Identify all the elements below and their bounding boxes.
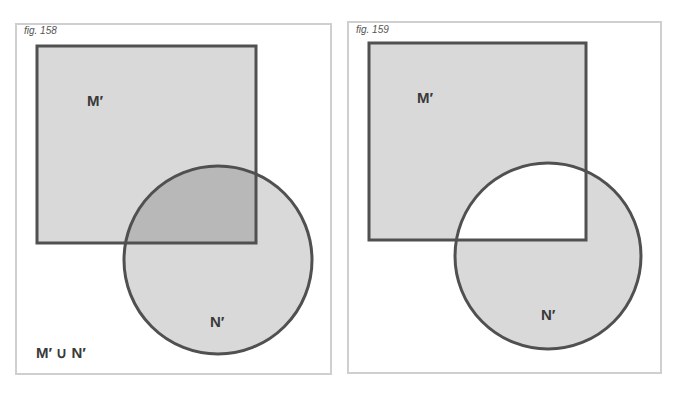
union-caption: M′ ∪ N′ [36,344,86,361]
set-m-label: M′ [417,89,433,106]
set-n-label: N′ [210,313,225,330]
set-m-label: M′ [87,92,103,109]
figure-159-diagram: M′ N′ [369,43,641,349]
set-n-label: N′ [541,306,556,323]
venn-diagrams: M′ N′ M′ ∪ N′ M′ N′ [0,0,683,393]
figure-158-diagram: M′ N′ M′ ∪ N′ [36,46,312,361]
